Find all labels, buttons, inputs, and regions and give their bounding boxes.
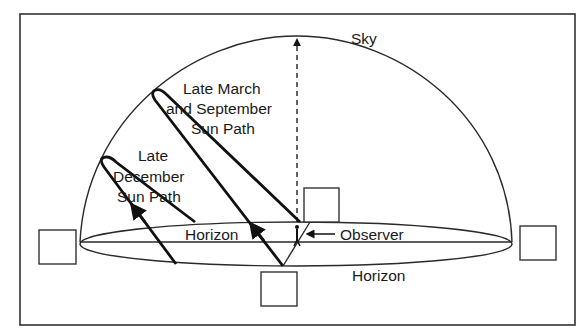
- march-path-arrow: [254, 228, 264, 241]
- answer-box-east[interactable]: [520, 226, 556, 260]
- observer-label: Observer: [340, 226, 404, 243]
- march-label-line3: Sun Path: [191, 120, 255, 137]
- december-path-arrow: [135, 209, 145, 222]
- sky-label: Sky: [351, 30, 377, 47]
- december-label-line1: Late: [138, 147, 168, 164]
- sky-dome: [80, 36, 512, 242]
- answer-box-north[interactable]: [304, 188, 339, 222]
- answer-box-west[interactable]: [39, 230, 76, 264]
- sun-path-diagram: Sky Late March and September Sun Path La…: [0, 0, 587, 336]
- answer-box-south[interactable]: [261, 272, 297, 306]
- horizon-inner-label: Horizon: [185, 226, 238, 243]
- december-label-line3: Sun Path: [117, 188, 181, 205]
- march-label-line2: and September: [166, 100, 272, 117]
- december-label-line2: December: [113, 168, 185, 185]
- march-label-line1: Late March: [183, 80, 261, 97]
- horizon-outer-label: Horizon: [352, 267, 405, 284]
